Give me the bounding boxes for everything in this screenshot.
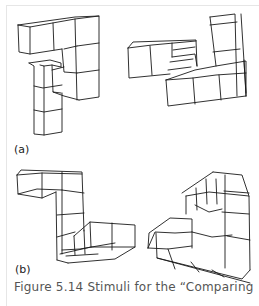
cube-edge xyxy=(62,49,77,73)
cube-edge xyxy=(227,236,250,240)
cube-edge xyxy=(75,19,77,100)
cube-edge xyxy=(57,232,75,237)
cube-edge xyxy=(210,14,237,96)
cube-edge xyxy=(18,25,62,54)
cube-edge xyxy=(128,48,170,78)
cube-edge xyxy=(62,243,115,250)
cube-edge xyxy=(222,212,249,214)
cube-edge xyxy=(206,179,207,204)
cube-edge xyxy=(195,205,222,212)
cube-edge xyxy=(18,16,99,27)
cube-edge xyxy=(219,75,221,100)
cube-edge xyxy=(90,222,91,247)
cube-edge xyxy=(216,179,217,204)
cube-edge xyxy=(34,85,62,88)
cube-edge xyxy=(148,232,192,248)
cube-edge xyxy=(52,67,64,70)
cube-edge xyxy=(182,172,213,193)
stimulus-b-right xyxy=(148,172,250,283)
cube-edge xyxy=(166,80,246,106)
cube-edge xyxy=(166,73,246,80)
cube-edge xyxy=(193,78,195,104)
cube-edge xyxy=(53,92,79,100)
cube-edge xyxy=(34,109,62,112)
panel-label-a: (a) xyxy=(14,143,29,156)
cube-edge xyxy=(53,23,54,50)
stimulus-a-left xyxy=(18,16,99,135)
cube-edge xyxy=(17,170,84,231)
cube-edge xyxy=(170,59,193,62)
panel-label-b: (b) xyxy=(15,263,31,276)
cube-edge xyxy=(17,173,82,175)
cube-edge xyxy=(156,233,250,283)
cube-edge xyxy=(210,22,237,25)
cube-edge xyxy=(40,65,44,135)
cube-edge xyxy=(77,43,99,46)
cube-edge xyxy=(241,14,246,93)
cube-edge xyxy=(18,189,84,194)
cube-edge xyxy=(57,213,84,215)
cube-edge xyxy=(192,232,232,237)
cube-edge xyxy=(56,192,57,260)
cube-edge xyxy=(166,61,246,96)
cube-edge xyxy=(57,260,68,263)
figure-caption: Figure 5.14 Stimuli for the “Comparing xyxy=(14,280,254,294)
cube-edge xyxy=(17,175,56,198)
cube-edge xyxy=(77,70,99,73)
cube-edge xyxy=(68,222,135,263)
stimulus-b-left xyxy=(17,170,135,263)
cube-edge xyxy=(224,191,249,193)
cube-edge xyxy=(186,192,250,270)
cube-edge xyxy=(66,254,98,256)
cube-edge xyxy=(157,258,250,279)
cube-edge xyxy=(173,47,195,50)
cube-edge xyxy=(84,230,85,254)
cube-edge xyxy=(150,46,152,75)
cube-edge xyxy=(29,63,62,135)
cube-edge xyxy=(64,46,77,49)
cube-edge xyxy=(168,249,175,269)
cube-edge xyxy=(60,247,135,254)
cube-edge xyxy=(148,246,192,249)
cube-edge xyxy=(196,188,197,210)
cube-edge xyxy=(74,236,75,255)
stimulus-a-right xyxy=(128,14,246,106)
cube-edge xyxy=(168,67,191,70)
